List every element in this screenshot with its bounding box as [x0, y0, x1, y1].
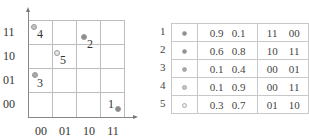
table-row: 0.60.8 1011 [172, 42, 309, 60]
point-label-2: 2 [87, 37, 93, 52]
y-label: 01 [3, 73, 23, 88]
table-row: 0.10.9 0011 [172, 78, 309, 96]
point-label-3: 3 [37, 76, 43, 91]
code-d: 11 [283, 81, 305, 93]
y-label: 00 [3, 97, 23, 112]
value-b: 0.9 [228, 81, 250, 93]
x-axis-arrow-icon [133, 115, 138, 119]
code-c: 11 [261, 27, 283, 39]
value-a: 0.3 [206, 99, 228, 111]
grid-line [28, 68, 125, 69]
grid-line [28, 44, 125, 45]
x-label: 00 [29, 124, 53, 137]
value-b: 0.4 [228, 63, 250, 75]
code-d: 11 [283, 45, 305, 57]
data-table: 0.90.1 1100 0.60.8 1011 0.10.4 0001 0.10… [171, 23, 309, 114]
table-row: 0.90.1 1100 [172, 24, 309, 42]
y-axis [28, 10, 29, 118]
code-c: 10 [261, 45, 283, 57]
point-label-4: 4 [37, 27, 43, 42]
x-label: 11 [101, 124, 125, 137]
x-label: 10 [77, 124, 101, 137]
point-marker-1 [115, 106, 121, 112]
color-dot-icon [182, 49, 187, 54]
x-axis [28, 117, 134, 118]
color-dot-icon [182, 103, 187, 108]
value-a: 0.1 [206, 63, 228, 75]
code-d: 00 [283, 27, 305, 39]
y-label: 10 [3, 49, 23, 64]
y-axis-arrow-icon [26, 7, 30, 12]
code-d: 10 [283, 99, 305, 111]
code-c: 00 [261, 81, 283, 93]
code-c: 01 [261, 99, 283, 111]
table-row: 0.10.4 0001 [172, 60, 309, 78]
value-b: 0.7 [228, 99, 250, 111]
value-a: 0.9 [206, 27, 228, 39]
grid-line [28, 92, 125, 93]
point-label-5: 5 [60, 53, 66, 68]
grid-line [28, 20, 125, 21]
code-d: 01 [283, 63, 305, 75]
color-dot-icon [182, 31, 187, 36]
value-a: 0.1 [206, 81, 228, 93]
color-dot-icon [182, 85, 187, 90]
code-c: 00 [261, 63, 283, 75]
row-number: 1 [160, 25, 170, 37]
row-number: 5 [160, 97, 170, 109]
row-number: 2 [160, 43, 170, 55]
table-row: 0.30.7 0110 [172, 96, 309, 114]
value-a: 0.6 [206, 45, 228, 57]
row-number: 3 [160, 61, 170, 73]
grid-plot: 11 10 01 00 00 01 10 11 1 2 3 4 5 [0, 0, 150, 137]
color-dot-icon [182, 67, 187, 72]
x-label: 01 [53, 124, 77, 137]
value-b: 0.1 [228, 27, 250, 39]
value-b: 0.8 [228, 45, 250, 57]
row-number: 4 [160, 79, 170, 91]
point-label-1: 1 [108, 97, 114, 112]
y-label: 11 [3, 25, 23, 40]
